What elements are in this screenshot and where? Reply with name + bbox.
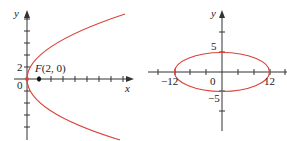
left-origin-label: 0 bbox=[17, 79, 23, 91]
right-x-tick-left: −12 bbox=[161, 75, 178, 87]
right-y-label: y bbox=[210, 7, 216, 19]
right-x-tick-right: 12 bbox=[264, 75, 275, 87]
right-y-axis-arrow-icon bbox=[219, 10, 225, 18]
parabola-graph: y x 2 0 F(2, 0) bbox=[13, 7, 134, 140]
focus-label: F(2, 0) bbox=[34, 62, 66, 75]
focus-point bbox=[37, 77, 41, 81]
diagram-canvas: y x 2 0 F(2, 0) y 5 −5 0 −12 12 bbox=[0, 0, 287, 141]
left-x-label: x bbox=[124, 82, 130, 94]
right-y-tick-bottom: −5 bbox=[208, 92, 220, 104]
left-y-tick-2: 2 bbox=[17, 61, 23, 73]
right-y-tick-top: 5 bbox=[211, 40, 217, 52]
vertex-point bbox=[25, 77, 29, 81]
left-y-axis-arrow-icon bbox=[24, 10, 30, 18]
left-y-label: y bbox=[13, 7, 19, 19]
ellipse-graph: y 5 −5 0 −12 12 bbox=[148, 7, 287, 131]
right-origin-label: 0 bbox=[210, 75, 216, 87]
parabola-curve bbox=[27, 14, 125, 140]
